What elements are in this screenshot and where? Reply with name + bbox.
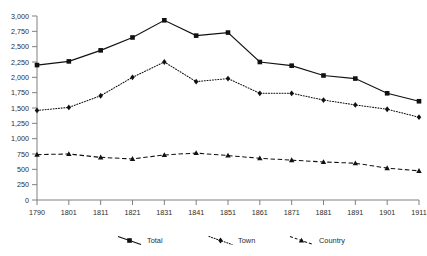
y-tick-label: 1,250 <box>11 119 29 128</box>
legend-item-total[interactable]: Total <box>118 236 163 245</box>
x-tick-label: 1901 <box>379 208 395 217</box>
y-tick-label: 1,500 <box>11 104 29 113</box>
x-tick-label: 1861 <box>252 208 268 217</box>
data-point-total <box>162 18 167 23</box>
legend-marker-total <box>127 238 132 243</box>
data-point-town <box>194 79 199 85</box>
series-total <box>35 18 422 104</box>
data-point-town <box>321 97 326 103</box>
series-country <box>34 150 421 173</box>
x-tick-label: 1790 <box>29 208 45 217</box>
line-chart: 02505007501,0001,2501,5001,7502,0002,250… <box>0 0 427 256</box>
data-point-country <box>353 160 358 165</box>
x-tick-label: 1881 <box>316 208 332 217</box>
y-axis-label-group: 02505007501,0001,2501,5001,7502,0002,250… <box>11 12 29 205</box>
y-tick-label: 2,750 <box>11 27 29 36</box>
series-line-town <box>37 62 419 117</box>
data-point-total <box>417 99 422 104</box>
y-axis-tick-group <box>32 16 37 200</box>
y-tick-label: 3,000 <box>11 12 29 21</box>
legend-item-country[interactable]: Country <box>290 236 345 245</box>
x-tick-label: 1841 <box>188 208 204 217</box>
data-point-total <box>35 63 40 68</box>
data-point-total <box>353 76 358 81</box>
y-tick-label: 1,750 <box>11 88 29 97</box>
data-point-total <box>321 73 326 78</box>
data-point-total <box>385 91 390 96</box>
y-tick-label: 250 <box>17 180 29 189</box>
legend-label-total: Total <box>147 236 163 245</box>
data-point-country <box>416 168 421 173</box>
y-tick-label: 0 <box>25 196 29 205</box>
x-axis-tick-group <box>37 200 419 205</box>
x-tick-label: 1891 <box>347 208 363 217</box>
data-point-town <box>130 74 135 80</box>
data-point-total <box>67 59 72 64</box>
data-point-total <box>130 35 135 40</box>
chart-legend: TotalTownCountry <box>118 236 345 245</box>
x-tick-label: 1801 <box>61 208 77 217</box>
data-point-town <box>98 93 103 99</box>
y-tick-label: 500 <box>17 165 29 174</box>
x-tick-label: 1811 <box>93 208 108 217</box>
data-point-town <box>226 76 231 82</box>
data-point-town <box>258 90 263 96</box>
data-point-total <box>194 33 199 38</box>
legend-label-country: Country <box>319 236 345 245</box>
data-point-town <box>289 90 294 96</box>
x-axis-label-group: 1790180118111821183118411851186118711881… <box>29 208 427 217</box>
y-tick-label: 2,250 <box>11 58 29 67</box>
x-tick-label: 1871 <box>284 208 300 217</box>
legend-item-town[interactable]: Town <box>209 236 255 245</box>
y-tick-label: 2,000 <box>11 73 29 82</box>
data-point-country <box>225 153 230 158</box>
legend-marker-town <box>218 238 223 244</box>
y-tick-label: 2,500 <box>11 42 29 51</box>
y-tick-label: 1,000 <box>11 134 29 143</box>
data-point-total <box>289 63 294 68</box>
x-tick-label: 1821 <box>125 208 141 217</box>
data-point-total <box>226 30 231 35</box>
data-point-total <box>258 60 263 65</box>
x-tick-label: 1831 <box>156 208 172 217</box>
data-point-town <box>417 114 422 120</box>
series-town <box>35 59 422 120</box>
data-point-town <box>353 102 358 108</box>
y-tick-label: 750 <box>17 150 29 159</box>
x-tick-label: 1851 <box>220 208 236 217</box>
series-layer <box>34 18 421 173</box>
data-point-total <box>98 48 103 53</box>
chart-container: 02505007501,0001,2501,5001,7502,0002,250… <box>0 0 427 256</box>
data-point-town <box>67 104 72 110</box>
data-point-town <box>162 59 167 65</box>
legend-label-town: Town <box>238 236 255 245</box>
x-tick-label: 1911 <box>411 208 426 217</box>
data-point-town <box>385 106 390 112</box>
